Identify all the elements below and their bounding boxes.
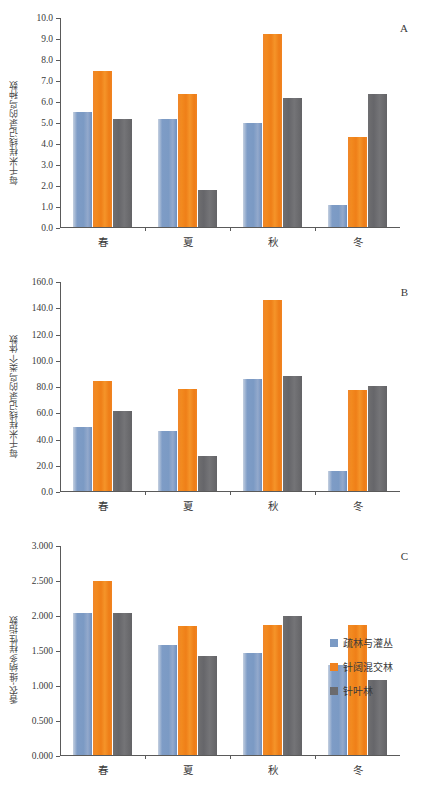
y-tick-label-b-0: 160.0 [32, 277, 53, 287]
y-tick-c-6 [56, 756, 60, 757]
bar-b-0-0 [73, 427, 92, 491]
bar-a-2-1 [263, 34, 282, 227]
y-tick-label-a-6: 4.0 [41, 139, 53, 149]
y-tick-label-b-7: 20.0 [36, 461, 53, 471]
bar-groups-a: 春夏秋冬 [60, 18, 400, 227]
y-tick-label-c-5: 0.500 [32, 716, 53, 726]
panel-letter-a: A [400, 22, 408, 34]
y-tick-label-c-1: 2.500 [32, 576, 53, 586]
y-tick-label-b-8: 0.0 [41, 487, 53, 497]
y-axis-label-b: 每千米样线记录的鸟类个体数 [2, 264, 22, 528]
y-axis-label-text-c: 香农-维纳多样性指数 [6, 615, 19, 704]
y-tick-label-a-1: 9.0 [41, 34, 53, 44]
bar-a-3-0 [328, 205, 347, 227]
bar-a-3-2 [368, 94, 387, 227]
panel-letter-c: C [401, 550, 408, 562]
x-category-label-a-0: 春 [98, 234, 108, 249]
legend-label-0: 疏林与灌丛 [343, 635, 393, 650]
bar-a-1-1 [178, 94, 197, 227]
bar-c-1-2 [198, 656, 217, 755]
x-category-tick-c-1 [145, 755, 146, 759]
bar-c-0-2 [113, 613, 132, 755]
y-tick-label-b-2: 120.0 [32, 330, 53, 340]
x-category-label-c-0: 春 [98, 762, 108, 777]
y-axis-label-a: 每千米样线记录的鸟种数 [2, 0, 22, 264]
bar-c-2-2 [283, 616, 302, 755]
bar-b-1-2 [198, 456, 217, 491]
y-tick-a-10 [56, 228, 60, 229]
y-tick-label-a-10: 0.0 [41, 223, 53, 233]
bar-a-1-0 [158, 119, 177, 227]
bar-b-2-1 [263, 300, 282, 491]
bar-b-3-0 [328, 471, 347, 491]
x-category-label-c-2: 秋 [268, 762, 278, 777]
legend-label-1: 针阔混交林 [343, 659, 393, 674]
y-tick-label-a-9: 1.0 [41, 202, 53, 212]
y-tick-label-a-7: 3.0 [41, 160, 53, 170]
legend-item-0: 疏林与灌丛 [330, 635, 393, 650]
bar-a-0-2 [113, 119, 132, 227]
bar-c-2-0 [243, 653, 262, 755]
bar-c-1-0 [158, 645, 177, 755]
bar-group-c-0: 春 [60, 546, 145, 755]
bar-group-a-1: 夏 [145, 18, 230, 227]
legend-item-2: 针叶林 [330, 683, 393, 698]
x-category-label-a-1: 夏 [183, 234, 193, 249]
bar-group-a-0: 春 [60, 18, 145, 227]
y-tick-label-a-2: 8.0 [41, 55, 53, 65]
x-category-label-a-2: 秋 [268, 234, 278, 249]
bar-c-0-1 [93, 581, 112, 755]
bar-group-a-3: 冬 [315, 18, 400, 227]
bar-a-0-0 [73, 112, 92, 227]
y-tick-label-c-2: 2.000 [32, 611, 53, 621]
x-category-label-b-1: 夏 [183, 498, 193, 513]
chart-legend: 疏林与灌丛针阔混交林针叶林 [330, 635, 393, 698]
x-category-label-c-3: 冬 [353, 762, 363, 777]
x-category-label-c-1: 夏 [183, 762, 193, 777]
bar-b-0-1 [93, 381, 112, 491]
bar-a-2-0 [243, 123, 262, 228]
y-tick-b-8 [56, 492, 60, 493]
x-category-tick-a-2 [230, 227, 231, 231]
bar-b-0-2 [113, 411, 132, 491]
bar-group-b-2: 秋 [230, 282, 315, 491]
bar-group-b-3: 冬 [315, 282, 400, 491]
y-tick-label-a-5: 5.0 [41, 118, 53, 128]
bar-b-2-0 [243, 379, 262, 491]
x-category-tick-b-2 [230, 491, 231, 495]
bar-a-0-1 [93, 71, 112, 227]
bar-group-c-2: 秋 [230, 546, 315, 755]
legend-swatch-icon-1 [330, 663, 338, 671]
y-tick-label-c-0: 3.000 [32, 541, 53, 551]
y-tick-label-a-3: 7.0 [41, 76, 53, 86]
y-tick-label-c-3: 1.500 [32, 646, 53, 656]
bar-groups-b: 春夏秋冬 [60, 282, 400, 491]
bar-group-c-1: 夏 [145, 546, 230, 755]
bar-group-b-1: 夏 [145, 282, 230, 491]
y-tick-label-a-4: 6.0 [41, 97, 53, 107]
y-tick-label-a-8: 2.0 [41, 181, 53, 191]
y-tick-label-b-4: 80.0 [36, 382, 53, 392]
y-tick-label-b-3: 100.0 [32, 356, 53, 366]
x-category-label-b-3: 冬 [353, 498, 363, 513]
legend-label-2: 针叶林 [343, 683, 373, 698]
bar-a-3-1 [348, 137, 367, 227]
legend-item-1: 针阔混交林 [330, 659, 393, 674]
y-tick-label-b-1: 140.0 [32, 303, 53, 313]
y-axis-label-text-b: 每千米样线记录的鸟类个体数 [6, 334, 19, 458]
x-category-tick-c-2 [230, 755, 231, 759]
y-tick-label-b-6: 40.0 [36, 435, 53, 445]
y-tick-label-c-6: 0.000 [32, 751, 53, 761]
bar-b-3-1 [348, 390, 367, 491]
y-axis-label-text-a: 每千米样线记录的鸟种数 [6, 80, 19, 185]
x-category-tick-c-3 [315, 755, 316, 759]
bar-a-1-2 [198, 190, 217, 227]
bar-c-2-1 [263, 625, 282, 755]
x-category-label-a-3: 冬 [353, 234, 363, 249]
bar-group-b-0: 春 [60, 282, 145, 491]
legend-swatch-icon-2 [330, 687, 338, 695]
bar-b-1-1 [178, 389, 197, 491]
x-category-tick-b-3 [315, 491, 316, 495]
chart-panel-a: 每千米样线记录的鸟种数A10.09.08.07.06.05.04.03.02.0… [0, 0, 422, 264]
bar-b-3-2 [368, 386, 387, 491]
